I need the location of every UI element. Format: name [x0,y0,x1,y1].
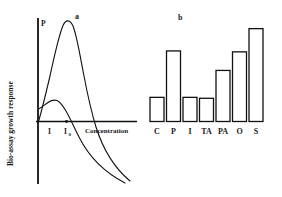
panel-a-curve-label-p: P [41,19,46,28]
panel-b-bars [150,29,263,122]
bar-label-pa: PA [218,127,228,136]
bar-i[interactable] [183,97,197,121]
panel-b-category-labels: C P I TA PA O S [154,127,259,136]
bar-c[interactable] [150,97,164,121]
bar-label-c: C [154,127,160,136]
panel-a-xtick-i0-subscript: 0 [69,132,72,137]
bar-s[interactable] [249,29,263,122]
bar-pa[interactable] [216,70,230,121]
figure-svg: a Bio-assay growth response P I I 0 [0,0,282,197]
panel-b-label: b [178,13,183,22]
bar-label-i: I [188,127,191,136]
bar-label-s: S [254,127,259,136]
bar-label-o: O [236,127,242,136]
panel-a-curve-secondary [39,100,126,183]
bar-o[interactable] [233,52,247,122]
bar-label-p: P [171,127,176,136]
figure-container: a Bio-assay growth response P I I 0 [0,0,282,197]
panel-a: a Bio-assay growth response P I I 0 [6,12,137,184]
bar-label-ta: TA [201,127,212,136]
bar-p[interactable] [167,51,181,122]
panel-a-marker-i0 [65,120,68,123]
panel-a-xtick-i: I [48,127,51,136]
panel-a-label: a [75,12,79,21]
panel-a-xtick-i0: I 0 [64,127,72,137]
panel-a-xtick-i0-base: I [64,127,67,136]
panel-a-y-axis-label: Bio-assay growth response [6,81,15,166]
panel-b: b C P I TA PA O S [150,13,263,136]
bar-ta[interactable] [200,98,214,121]
panel-a-x-axis-label: Concentration [85,127,128,135]
